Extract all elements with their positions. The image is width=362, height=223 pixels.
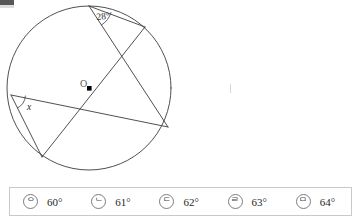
- choice-marker-circled-2: ᄂ: [91, 194, 106, 209]
- answer-choice-5[interactable]: ᄆ 64°: [283, 194, 351, 209]
- worksheet-page: O 28° x ᄋ 60° ᄂ 61° ᄃ 62° ᄅ 63° ᄆ 64°: [0, 0, 362, 223]
- answer-choices-bar: ᄋ 60° ᄂ 61° ᄃ 62° ᄅ 63° ᄆ 64°: [9, 187, 352, 216]
- choice-label-1: 60°: [47, 196, 62, 208]
- choice-label-5: 64°: [320, 196, 335, 208]
- angle-label-x: x: [27, 103, 31, 113]
- scan-artifact-edge: [230, 84, 231, 93]
- geometry-figure: O 28° x: [0, 0, 200, 180]
- choice-marker-circled-3: ᄃ: [159, 194, 174, 209]
- chord-top-to-right: [89, 6, 168, 127]
- center-point-dot: [87, 86, 92, 91]
- choice-label-3: 62°: [183, 196, 198, 208]
- answer-choice-4[interactable]: ᄅ 63°: [215, 194, 283, 209]
- answer-choice-2[interactable]: ᄂ 61°: [78, 194, 146, 209]
- center-label-o: O: [80, 79, 87, 89]
- choice-marker-circled-4: ᄅ: [228, 194, 243, 209]
- choice-marker-circled-5: ᄆ: [296, 194, 311, 209]
- answer-choice-3[interactable]: ᄃ 62°: [146, 194, 214, 209]
- choice-marker-circled-1: ᄋ: [23, 194, 38, 209]
- choice-label-4: 63°: [252, 196, 267, 208]
- answer-choice-1[interactable]: ᄋ 60°: [10, 194, 78, 209]
- chord-upperright-to-bottom: [42, 27, 145, 157]
- choice-label-2: 61°: [115, 196, 130, 208]
- chord-left-to-right: [11, 95, 168, 127]
- angle-label-28: 28°: [96, 12, 110, 23]
